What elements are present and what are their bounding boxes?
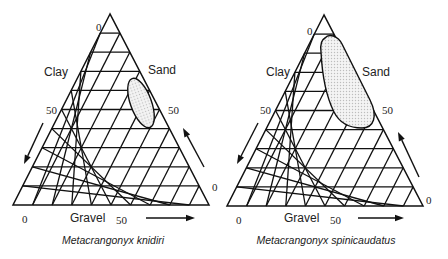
sand-axis-label: Sand xyxy=(362,65,390,79)
apex-zero-tick: 0 xyxy=(96,21,102,33)
left-direction-arrow-icon xyxy=(24,123,43,164)
habitat-region xyxy=(122,75,160,131)
ternary-diagram-figure: 0 Clay Sand 50 50 0 Gravel 50 0 Metacran… xyxy=(0,0,448,259)
bottom-right-zero-tick: 0 xyxy=(426,194,432,206)
bottom-direction-arrow-icon xyxy=(146,215,195,221)
bottom-fifty-tick: 50 xyxy=(330,214,342,226)
species-caption: Metacrangonyx spinicaudatus xyxy=(257,234,397,246)
bottom-left-zero-tick: 0 xyxy=(22,213,28,225)
grid-line xyxy=(364,149,393,206)
left-fifty-tick: 50 xyxy=(260,104,272,116)
triangle-grid xyxy=(13,14,209,205)
sand-axis-label: Sand xyxy=(148,63,176,77)
bottom-fifty-tick: 50 xyxy=(116,214,128,226)
bottom-direction-arrow-icon xyxy=(358,215,404,221)
bottom-left-zero-tick: 0 xyxy=(236,214,242,226)
ternary-plot-knidiri: 0 Clay Sand 50 50 0 Gravel 50 0 Metacran… xyxy=(13,14,218,246)
gravel-axis-label: Gravel xyxy=(284,211,319,225)
clay-axis-label: Clay xyxy=(266,65,290,79)
apex-zero-tick: 0 xyxy=(307,25,313,37)
species-caption: Metacrangonyx knidiri xyxy=(62,234,165,246)
right-fifty-tick: 50 xyxy=(382,104,394,116)
grid-line xyxy=(150,148,179,205)
grid-line xyxy=(23,186,190,205)
right-direction-arrow-icon xyxy=(398,132,419,177)
grid-line xyxy=(403,187,413,206)
left-direction-arrow-icon xyxy=(237,123,258,164)
figure-canvas: 0 Clay Sand 50 50 0 Gravel 50 0 Metacran… xyxy=(0,0,448,259)
bottom-right-zero-tick: 0 xyxy=(212,181,218,193)
left-fifty-tick: 50 xyxy=(46,104,58,116)
gravel-axis-label: Gravel xyxy=(70,211,105,225)
grid-line xyxy=(237,187,404,206)
grid-line xyxy=(189,186,199,205)
habitat-region xyxy=(321,36,375,128)
ternary-plot-spinicaudatus: 0 Clay Sand 50 50 0 Gravel 50 0 Metacran… xyxy=(227,15,432,246)
clay-axis-label: Clay xyxy=(44,65,68,79)
right-fifty-tick: 50 xyxy=(168,104,180,116)
